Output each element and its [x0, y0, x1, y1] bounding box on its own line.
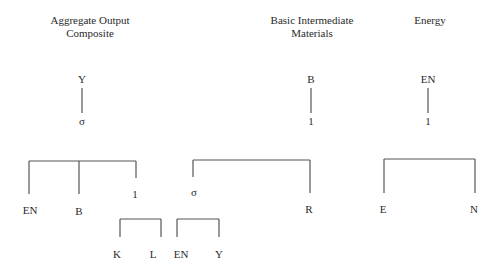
aggregate-title: Aggregate Output Composite: [50, 14, 129, 40]
node-basic-y: Y: [215, 248, 223, 260]
node-energy-root: EN: [421, 73, 436, 85]
node-aggregate-one: 1: [132, 188, 138, 200]
node-basic-r: R: [305, 203, 312, 215]
node-aggregate-l: L: [150, 248, 157, 260]
node-aggregate-b: B: [75, 205, 82, 217]
aggregate-title-line2: Composite: [50, 27, 129, 40]
node-basic-sigma: σ: [191, 186, 197, 198]
node-energy-n: N: [470, 203, 478, 215]
node-aggregate-en: EN: [23, 204, 38, 216]
node-aggregate-k: K: [113, 248, 121, 260]
node-energy-e: E: [380, 203, 387, 215]
node-aggregate-sigma: σ: [79, 115, 85, 127]
node-aggregate-root: Y: [78, 73, 86, 85]
energy-title: Energy: [414, 14, 446, 27]
basic-title: Basic Intermediate Materials: [271, 14, 354, 40]
energy-title-text: Energy: [414, 14, 446, 27]
node-basic-one: 1: [308, 115, 314, 127]
basic-title-line1: Basic Intermediate: [271, 14, 354, 27]
node-basic-root: B: [307, 73, 314, 85]
node-basic-en: EN: [174, 248, 189, 260]
aggregate-title-line1: Aggregate Output: [50, 14, 129, 27]
tree-connectors: [0, 0, 498, 267]
node-energy-one: 1: [425, 115, 431, 127]
basic-title-line2: Materials: [271, 27, 354, 40]
